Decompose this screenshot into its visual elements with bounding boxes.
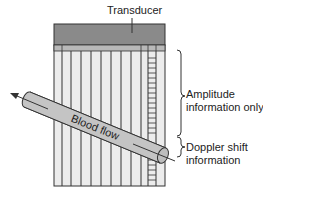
- amplitude-brace: [177, 50, 185, 136]
- doppler-label-line1: Doppler shift: [186, 141, 248, 153]
- amplitude-label-line1: Amplitude: [186, 88, 235, 100]
- doppler-brace: [177, 137, 185, 157]
- transducer-block: [54, 24, 165, 45]
- amplitude-label-line2: information only: [186, 101, 263, 113]
- doppler-label-line2: information: [186, 154, 240, 166]
- transducer-label: Transducer: [107, 4, 162, 16]
